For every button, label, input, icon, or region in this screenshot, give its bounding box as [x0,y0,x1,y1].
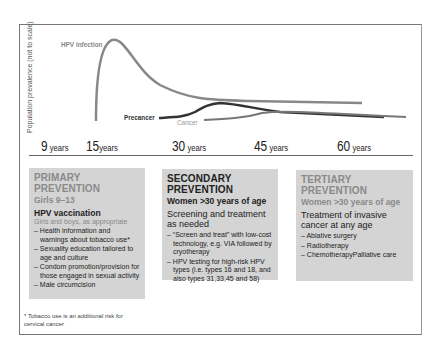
list-item: – Condom promotion/provision for those e… [34,263,140,280]
primary-subtitle: Girls 9–13 [34,195,140,205]
primary-list: – Health information and warnings about … [34,227,140,290]
list-item: – HPV testing for high-risk HPV types (i… [167,258,273,284]
x-tick-60: 60 years [337,138,371,154]
list-item: – Sexuality education tailored to age an… [34,245,140,262]
list-item: – “Screen and treat” with low-cost techn… [167,231,273,257]
secondary-list: – “Screen and treat” with low-cost techn… [167,231,273,283]
hpv-infection-label: HPV infection [61,40,102,49]
primary-title: PRIMARY PREVENTION [34,172,140,194]
secondary-prevention-box: SECONDARY PREVENTION Women >30 years of … [162,169,278,280]
hpv-infection-curve [96,40,362,121]
list-item: – Health information and warnings about … [34,227,140,244]
tertiary-heading: Treatment of invasive cancer at any age [301,210,408,230]
tertiary-prevention-box: TERTIARY PREVENTION Women >30 years of a… [296,170,413,281]
x-tick-9: 9 years [41,138,68,154]
list-item: – Ablative surgery [301,232,408,241]
secondary-title: SECONDARY PREVENTION [167,173,273,195]
precancer-label: Precancer [124,113,155,122]
cancer-curve [204,112,406,120]
list-item: – Radiotherapy [301,242,408,251]
footnote: * Tobacco use is an additional risk for … [24,312,124,328]
cancer-label: Cancer [177,118,198,127]
separator-line [29,155,413,156]
primary-heading: HPV vaccination [34,208,140,218]
x-tick-30: 30 years [172,138,206,154]
tertiary-subtitle: Women >30 years of age [301,197,408,207]
tertiary-title: TERTIARY PREVENTION [301,174,408,196]
precancer-curve [159,103,384,118]
list-item: – ChemotherapyPalliative care [301,251,408,260]
secondary-heading: Screening and treatment as needed [167,209,273,229]
x-tick-45: 45 years [254,138,288,154]
primary-note: Girls and boys, as appropriate [34,218,140,225]
list-item: – Male circumcision [34,281,140,290]
x-tick-15: 15years [86,138,118,154]
primary-prevention-box: PRIMARY PREVENTION Girls 9–13 HPV vaccin… [29,168,145,299]
secondary-subtitle: Women >30 years of age [167,196,273,206]
tertiary-list: – Ablative surgery – Radiotherapy – Chem… [301,232,408,260]
